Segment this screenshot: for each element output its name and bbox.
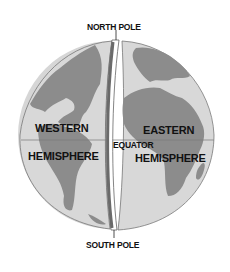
equator-label: EQUATOR <box>113 140 153 150</box>
western-hemisphere-label: HEMISPHERE <box>28 150 99 162</box>
south-pole-label: SOUTH POLE <box>86 240 139 250</box>
globe-diagram <box>0 0 230 272</box>
eastern-label: EASTERN <box>143 124 194 136</box>
eastern-hemisphere-label: HEMISPHERE <box>135 152 206 164</box>
western-label: WESTERN <box>35 122 89 134</box>
north-pole-label: NORTH POLE <box>87 22 141 32</box>
